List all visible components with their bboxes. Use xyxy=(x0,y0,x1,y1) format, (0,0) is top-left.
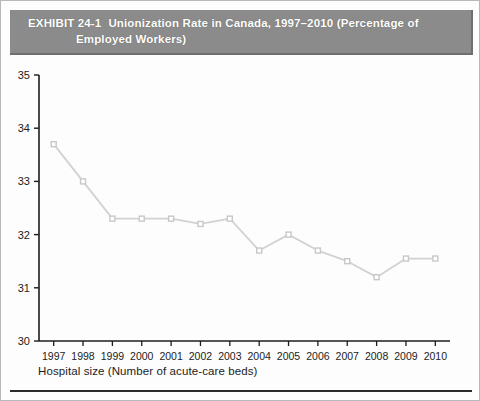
exhibit-title-line-1: Unionization Rate in Canada, 1997–2010 (… xyxy=(108,17,418,29)
bottom-divider xyxy=(10,390,472,392)
data-point-marker xyxy=(110,216,115,221)
y-tick-label: 32 xyxy=(18,229,30,241)
exhibit-title-line-2: Employed Workers) xyxy=(76,31,461,47)
data-point-marker xyxy=(198,221,203,226)
exhibit-title-band: EXHIBIT 24-1Unionization Rate in Canada,… xyxy=(10,10,473,55)
data-point-marker xyxy=(345,259,350,264)
y-tick-label: 34 xyxy=(18,122,30,134)
data-point-marker xyxy=(51,142,56,147)
data-point-marker xyxy=(139,216,144,221)
y-axis: 303132333435 xyxy=(18,69,39,347)
data-point-marker xyxy=(433,256,438,261)
x-tick-label: 2010 xyxy=(424,350,448,361)
x-tick-label: 2001 xyxy=(159,350,183,361)
y-tick-label: 30 xyxy=(18,335,30,347)
data-point-marker xyxy=(81,179,86,184)
x-tick-label: 2009 xyxy=(394,350,418,361)
x-tick-label: 2007 xyxy=(336,350,360,361)
data-point-marker xyxy=(403,256,408,261)
y-tick-label: 33 xyxy=(18,175,30,187)
data-series-unionization-rate xyxy=(51,142,438,280)
data-point-marker xyxy=(315,248,320,253)
x-tick-label: 2008 xyxy=(365,350,389,361)
exhibit-title-text: EXHIBIT 24-1Unionization Rate in Canada,… xyxy=(28,15,461,47)
x-tick-label: 2000 xyxy=(130,350,154,361)
data-point-marker xyxy=(169,216,174,221)
data-point-marker xyxy=(286,232,291,237)
exhibit-number: EXHIBIT 24-1 xyxy=(28,17,101,29)
exhibit-figure: EXHIBIT 24-1Unionization Rate in Canada,… xyxy=(0,0,480,401)
x-axis-caption: Hospital size (Number of acute-care beds… xyxy=(38,365,258,377)
chart-plot-area: 303132333435 199719981999200020012002200… xyxy=(1,61,480,361)
data-point-marker xyxy=(227,216,232,221)
line-chart-svg: 303132333435 199719981999200020012002200… xyxy=(1,61,480,361)
x-axis: 1997199819992000200120022003200420052006… xyxy=(39,341,450,361)
data-point-marker xyxy=(257,248,262,253)
data-point-marker xyxy=(374,275,379,280)
x-tick-label: 2005 xyxy=(277,350,301,361)
x-tick-label: 2002 xyxy=(189,350,213,361)
x-tick-label: 2006 xyxy=(306,350,330,361)
x-tick-label: 1999 xyxy=(101,350,125,361)
x-tick-label: 2004 xyxy=(247,350,271,361)
y-tick-label: 31 xyxy=(18,282,30,294)
x-tick-label: 1998 xyxy=(71,350,95,361)
x-tick-label: 2003 xyxy=(218,350,242,361)
x-tick-label: 1997 xyxy=(42,350,66,361)
y-tick-label: 35 xyxy=(18,69,30,81)
